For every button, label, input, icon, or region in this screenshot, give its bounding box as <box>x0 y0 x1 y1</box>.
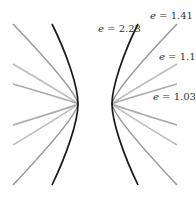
hyperbola-diagram: e = 2.23 e = 1.41 e = 1.1 e = 1.03 <box>0 0 196 199</box>
hyperbola-e11-left-branch <box>13 64 78 145</box>
hyperbola-e141-left-branch <box>13 24 78 185</box>
label-e223: e = 2.23 <box>98 23 141 34</box>
label-e103: e = 1.03 <box>153 91 196 102</box>
hyperbola-e141-right-branch <box>112 24 177 185</box>
hyperbola-e223-left-branch <box>52 24 78 185</box>
hyperbola-e223 <box>52 24 138 185</box>
hyperbola-e11-right-branch <box>112 64 177 145</box>
label-e11: e = 1.1 <box>159 51 196 62</box>
hyperbola-e11 <box>13 64 177 145</box>
hyperbola-e103-left-branch <box>13 84 78 125</box>
hyperbola-e141 <box>13 24 177 185</box>
label-e141: e = 1.41 <box>150 10 193 21</box>
hyperbola-e223-right-branch <box>112 24 138 185</box>
